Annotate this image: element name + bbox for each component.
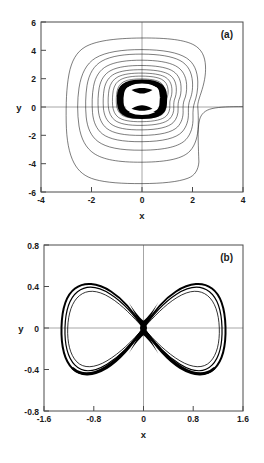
- panel-b-left-lobe-lower-thick: [73, 332, 141, 373]
- panel-a-limit-cycle-core: [119, 82, 164, 116]
- panel-b-left-lobe-band-inner: [65, 287, 144, 370]
- panel-b-yticklabel-0: 0.8: [27, 241, 39, 251]
- panel-b: 0.8 0.4 0 -0.4 -0.8 -1.6 -0.8 0 0.8 1.6 …: [0, 232, 264, 463]
- panel-b-left-lobe-band-outer: [61, 284, 143, 374]
- panel-b-right-lobe: [144, 284, 226, 374]
- panel-a-ylabel: y: [16, 102, 22, 113]
- panel-b-label: (b): [220, 252, 233, 263]
- panel-b-yticklabel-3: -0.4: [24, 365, 39, 375]
- panel-a-xlabel: x: [139, 210, 145, 221]
- panel-b-svg: 0.8 0.4 0 -0.4 -0.8 -1.6 -0.8 0 0.8 1.6 …: [0, 232, 264, 463]
- panel-a-yticklabel-0: 6: [31, 18, 36, 28]
- panel-b-xticklabel-0: -1.6: [37, 414, 52, 424]
- panel-b-yticklabel-2: 0: [34, 324, 39, 334]
- panel-a-xticks: [41, 187, 243, 192]
- figure-container: 6 4 2 0 -2 -4 -6 -4 -2 0 2 4 y x (a): [0, 0, 264, 463]
- panel-a-yticklabel-4: -2: [28, 131, 36, 141]
- panel-a-yticks: [41, 22, 46, 192]
- panel-a-yticklabel-3: 0: [31, 103, 36, 113]
- panel-b-right-lobe-band-outer: [144, 284, 226, 374]
- panel-b-xticks: [44, 406, 243, 411]
- panel-a-trajectories: [66, 38, 243, 184]
- panel-b-xlabel: x: [141, 429, 147, 440]
- panel-b-right-lobe-band-inner: [144, 287, 223, 370]
- panel-b-xticklabel-4: 1.6: [237, 414, 249, 424]
- panel-a-transient-inflow: [198, 107, 243, 162]
- panel-b-yticklabel-1: 0.4: [27, 282, 39, 292]
- panel-a-xticklabel-0: -4: [37, 195, 45, 205]
- panel-b-xticklabel-1: -0.8: [86, 414, 101, 424]
- panel-a-svg: 6 4 2 0 -2 -4 -6 -4 -2 0 2 4 y x (a): [0, 0, 264, 232]
- panel-a: 6 4 2 0 -2 -4 -6 -4 -2 0 2 4 y x (a): [0, 0, 264, 232]
- panel-b-right-lobe-lower-thick: [146, 332, 214, 373]
- panel-b-right-lobe-band-inner2: [144, 291, 220, 366]
- panel-b-xticklabel-2: 0: [141, 414, 146, 424]
- panel-a-yticklabel-5: -4: [28, 159, 36, 169]
- panel-b-yticks: [44, 245, 49, 411]
- panel-b-left-lobe-band-inner2: [68, 291, 144, 366]
- panel-a-yticklabel-6: -6: [28, 188, 36, 198]
- panel-a-xticklabel-1: -2: [88, 195, 96, 205]
- panel-b-left-lobe: [61, 284, 143, 374]
- panel-a-xticklabel-2: 0: [140, 195, 145, 205]
- panel-b-ylabel: y: [18, 323, 24, 334]
- panel-a-xticklabel-3: 2: [190, 195, 195, 205]
- panel-a-yticklabel-1: 4: [31, 46, 36, 56]
- panel-a-label: (a): [221, 29, 233, 40]
- panel-a-xticklabel-4: 4: [241, 195, 246, 205]
- panel-b-xticklabel-3: 0.8: [187, 414, 199, 424]
- panel-a-yticklabel-2: 2: [31, 74, 36, 84]
